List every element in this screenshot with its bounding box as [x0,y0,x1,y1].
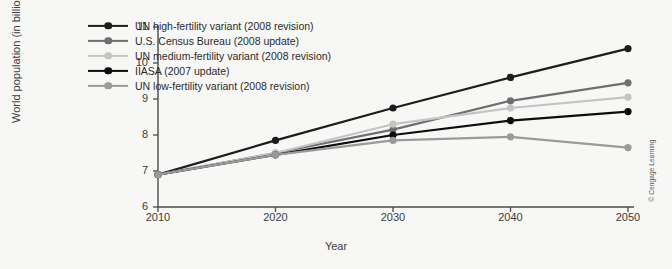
x-tick-label: 2030 [363,211,423,223]
series-point-3-4 [624,108,631,115]
x-tick-label: 2010 [128,211,188,223]
series-point-4-0 [154,171,161,178]
legend-label: U.S. Census Bureau (2008 update) [135,35,299,47]
legend-dot [104,22,112,30]
legend-label: UN low-fertility variant (2008 revision) [135,80,309,92]
legend-dot [104,67,112,75]
legend-swatch-icon [88,50,128,61]
legend-dot [104,82,112,90]
y-tick-label: 8 [122,128,148,140]
copyright-notice: © Cengage Learning [648,106,655,202]
series-point-4-4 [624,144,631,151]
legend-swatch-icon [88,20,128,31]
series-point-3-3 [507,117,514,124]
y-tick-label: 7 [122,164,148,176]
series-point-2-4 [624,94,631,101]
series-point-2-3 [507,104,514,111]
series-point-1-4 [624,79,631,86]
legend-item-0: UN high-fertility variant (2008 revision… [88,18,331,33]
x-tick-label: 2040 [481,211,541,223]
chart-legend: UN high-fertility variant (2008 revision… [88,18,331,93]
legend-item-3: IIASA (2007 update) [88,63,331,78]
legend-item-2: UN medium-fertility variant (2008 revisi… [88,48,331,63]
x-tick-label: 2050 [598,211,658,223]
legend-label: IIASA (2007 update) [135,65,230,77]
legend-dot [104,37,112,45]
figure-world-population-projections: World population (in billions) Year 6789… [0,0,672,269]
legend-swatch-icon [88,65,128,76]
series-point-0-1 [272,137,279,144]
legend-label: UN high-fertility variant (2008 revision… [135,20,314,32]
series-point-2-2 [389,121,396,128]
series-point-0-4 [624,45,631,52]
series-point-4-1 [272,151,279,158]
legend-dot [104,52,112,60]
series-point-4-3 [507,133,514,140]
series-point-0-2 [389,104,396,111]
series-point-4-2 [389,137,396,144]
series-point-1-3 [507,97,514,104]
series-point-0-3 [507,74,514,81]
legend-item-4: UN low-fertility variant (2008 revision) [88,78,331,93]
legend-swatch-icon [88,80,128,91]
x-tick-label: 2020 [246,211,306,223]
legend-label: UN medium-fertility variant (2008 revisi… [135,50,331,62]
y-tick-label: 9 [122,92,148,104]
legend-swatch-icon [88,35,128,46]
legend-item-1: U.S. Census Bureau (2008 update) [88,33,331,48]
